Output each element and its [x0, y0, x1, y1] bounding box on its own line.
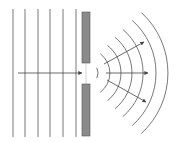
- circular-wavefront: [97, 68, 98, 78]
- diffraction-diagram: [0, 0, 185, 142]
- diffracted-arrow-upper: [104, 42, 144, 64]
- slit-barrier: [82, 12, 90, 136]
- barrier-top: [82, 12, 90, 63]
- barrier-bottom: [82, 84, 90, 136]
